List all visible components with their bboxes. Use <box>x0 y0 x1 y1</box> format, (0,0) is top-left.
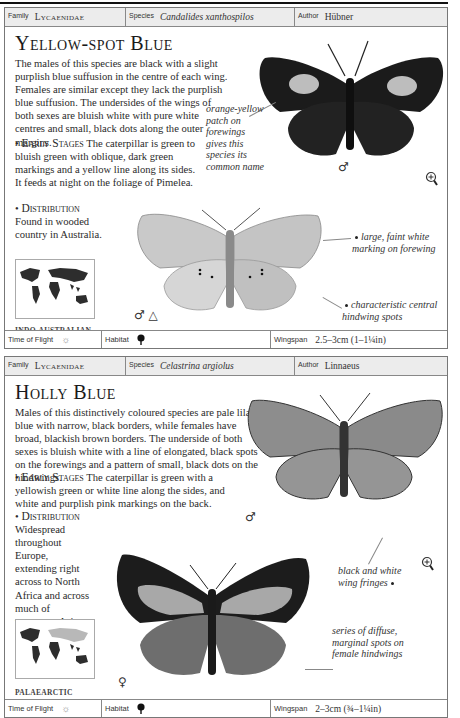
annotation-wing-fringes: black and white wing fringes <box>338 565 408 588</box>
tree-icon <box>137 703 145 714</box>
description-block: The males of this species are black with… <box>15 57 230 149</box>
tree-icon <box>137 334 145 345</box>
distribution-heading: Distribution <box>21 202 80 214</box>
wingspan-value: 2.5–3cm (1–1¼in) <box>315 335 385 345</box>
habitat-label: Habitat <box>105 704 129 713</box>
world-map-indo-australian <box>15 259 95 319</box>
page-top-rule <box>0 2 448 4</box>
bullet-icon: • <box>15 511 19 522</box>
bullet-icon: • <box>15 472 19 483</box>
family-cell: Family Lycaenidae <box>5 357 126 375</box>
species-entry-yellow-spot-blue: Family Lycaenidae Species Candalides xan… <box>4 7 448 349</box>
entry-header: Family Lycaenidae Species Celastrina arg… <box>5 357 447 376</box>
female-symbol-icon: ♀ <box>118 675 127 689</box>
annotation-large-faint-white-marking: large, faint white marking on forewing <box>352 231 447 254</box>
species-cell: Species Candalides xanthospilos <box>126 8 295 26</box>
author-cell: Author Hübner <box>295 8 447 26</box>
distribution-text: Found in wooded country in Australia. <box>15 216 102 240</box>
author-label: Author <box>298 361 319 368</box>
world-map-icon <box>16 620 94 678</box>
world-map-palaearctic <box>15 619 95 679</box>
time-of-flight-label: Time of Flight <box>8 335 53 344</box>
male-underside-symbol-icon: ♂ △ <box>134 308 158 322</box>
wingspan-cell: Wingspan 2–3cm (¾–1¼in) <box>271 700 447 717</box>
entry-header: Family Lycaenidae Species Candalides xan… <box>5 8 447 27</box>
annotation-leader-line <box>368 538 383 565</box>
wingspan-value: 2–3cm (¾–1¼in) <box>315 704 381 714</box>
early-stages-block: • Early Stages The caterpillar is green … <box>15 137 203 189</box>
butterfly-underside-image <box>130 202 330 322</box>
habitat-cell: Habitat <box>102 700 271 717</box>
region-label: PALAEARCTIC <box>15 688 73 697</box>
bullet-icon: • <box>15 203 19 214</box>
sun-icon: ☼ <box>61 703 70 714</box>
author-value: Linnaeus <box>325 361 360 371</box>
time-of-flight-cell: Time of Flight ☼ <box>5 700 102 717</box>
species-value: Celastrina argiolus <box>160 361 234 371</box>
species-value: Candalides xanthospilos <box>160 12 254 22</box>
magnify-icon[interactable] <box>425 171 439 187</box>
annotation-marginal-spots: series of diffuse, marginal spots on fem… <box>332 625 412 660</box>
early-stages-heading: Early Stages <box>21 471 83 483</box>
family-value: Lycaenidae <box>35 12 85 22</box>
habitat-label: Habitat <box>105 335 129 344</box>
family-cell: Family Lycaenidae <box>5 8 126 26</box>
species-title: Yellow-spot Blue <box>15 32 173 55</box>
time-of-flight-cell: Time of Flight ☼ <box>5 331 102 348</box>
bullet-icon: • <box>15 138 19 149</box>
wingspan-label: Wingspan <box>274 335 307 344</box>
wingspan-label: Wingspan <box>274 704 307 713</box>
annotation-dot-icon <box>355 236 358 239</box>
early-stages-heading: Early Stages <box>21 137 83 149</box>
author-label: Author <box>298 12 319 19</box>
butterfly-male-image <box>240 387 450 507</box>
description-text: The males of this species are black with… <box>15 57 230 149</box>
family-label: Family <box>8 361 29 368</box>
annotation-dot-icon <box>391 582 394 585</box>
family-value: Lycaenidae <box>35 361 85 371</box>
male-symbol-icon: ♂ <box>338 160 349 174</box>
annotation-orange-yellow-patch: orange-yellow patch on forewings gives t… <box>206 103 266 173</box>
early-stages-block: • Early Stages The caterpillar is green … <box>15 471 225 510</box>
species-label: Species <box>129 361 154 368</box>
author-cell: Author Linnaeus <box>295 357 447 375</box>
distribution-block: • Distribution Found in wooded country i… <box>15 202 110 241</box>
species-label: Species <box>129 12 154 19</box>
magnify-icon[interactable] <box>421 556 435 572</box>
author-value: Hübner <box>325 12 354 22</box>
world-map-icon <box>16 260 94 318</box>
habitat-cell: Habitat <box>102 331 271 348</box>
species-cell: Species Celastrina argiolus <box>126 357 295 375</box>
species-entry-holly-blue: Family Lycaenidae Species Celastrina arg… <box>4 356 448 718</box>
entry-footer: Time of Flight ☼ Habitat Wingspan 2–3cm … <box>5 699 447 717</box>
family-label: Family <box>8 12 29 19</box>
butterfly-female-image <box>110 545 320 695</box>
annotation-dot-icon <box>345 304 348 307</box>
species-title: Holly Blue <box>15 381 116 404</box>
annotation-central-hindwing-spots: characteristic central hindwing spots <box>342 299 447 322</box>
distribution-heading: Distribution <box>21 510 80 522</box>
time-of-flight-label: Time of Flight <box>8 704 53 713</box>
entry-footer: Time of Flight ☼ Habitat Wingspan 2.5–3c… <box>5 330 447 348</box>
butterfly-upperside-male-image <box>250 36 450 176</box>
wingspan-cell: Wingspan 2.5–3cm (1–1¼in) <box>271 331 447 348</box>
sun-icon: ☼ <box>61 334 70 345</box>
male-symbol-icon: ♂ <box>245 510 256 524</box>
annotation-leader-line <box>305 669 333 670</box>
